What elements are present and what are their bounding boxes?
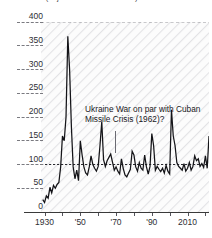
y-tick-mark-50 (17, 188, 43, 189)
x-tick-label-1930: 1930 (35, 217, 54, 227)
x-tick-mark-2000 (170, 213, 171, 217)
y-tick-label-250: 250 (9, 83, 43, 92)
x-tick-mark-1930 (45, 213, 46, 217)
annotation-leader-line (115, 131, 116, 153)
chart-title: Risk index (adjusted U.S. stock basis) (8, 0, 208, 2)
x-tick-mark-1970 (116, 213, 117, 217)
x-tick-mark-1940 (62, 213, 63, 217)
y-tick-mark-400 (17, 22, 43, 23)
y-tick-label-150: 150 (9, 131, 43, 140)
x-tick-mark-2020 (205, 213, 206, 217)
y-tick-mark-300 (17, 69, 43, 70)
y-tick-mark-250 (17, 93, 43, 94)
y-tick-mark-200 (17, 117, 43, 118)
y-tick-label-50: 50 (9, 178, 43, 187)
y-tick-label-0: 0 (9, 202, 43, 211)
x-tick-label-1990: '90 (146, 217, 157, 227)
y-tick-mark-150 (17, 140, 43, 141)
y-tick-label-300: 300 (9, 60, 43, 69)
chart-annotation: Ukraine War on par with Cuban Missile Cr… (85, 104, 210, 124)
x-tick-mark-1980 (134, 213, 135, 217)
y-tick-label-200: 200 (9, 107, 43, 116)
chart-figure: Risk index (adjusted U.S. stock basis) 0… (0, 0, 212, 238)
y-tick-mark-100 (17, 164, 43, 165)
x-tick-mark-1950 (80, 213, 81, 217)
x-tick-label-2010: 2010 (178, 217, 197, 227)
x-tick-mark-2010 (188, 213, 189, 217)
x-tick-label-1970: '70 (111, 217, 122, 227)
y-tick-label-400: 400 (9, 12, 43, 21)
y-tick-mark-350 (17, 45, 43, 46)
x-tick-mark-1990 (152, 213, 153, 217)
x-tick-mark-1960 (98, 213, 99, 217)
y-tick-label-350: 350 (9, 36, 43, 45)
y-tick-label-100: 100 (9, 155, 43, 164)
x-tick-label-1950: '50 (75, 217, 86, 227)
